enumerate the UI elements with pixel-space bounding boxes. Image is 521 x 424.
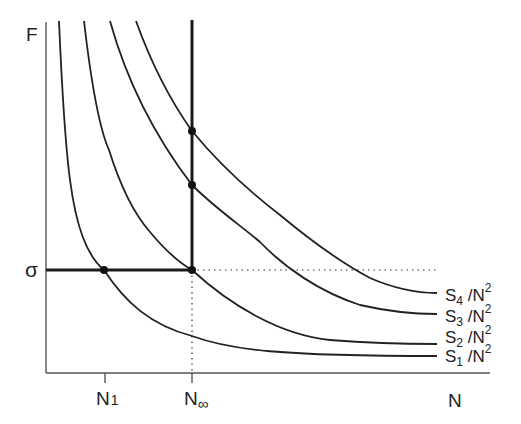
point-s1-sigma	[100, 266, 108, 274]
point-s3-ninf	[188, 181, 196, 189]
label-s1: S1 /N2	[445, 342, 492, 369]
x-axis-label: N	[448, 390, 462, 411]
y-axis-label: F	[26, 24, 38, 45]
sigma-label: σ	[25, 258, 38, 281]
diagram-canvas: F N σ N1 N∞ S4 /N2 S3 /N2 S2 /N2 S1 /N2	[0, 0, 521, 424]
point-s4-ninf	[188, 127, 196, 135]
point-s2-ninf	[188, 266, 196, 274]
curve-s2	[84, 21, 437, 344]
tick-label-n1: N1	[96, 388, 119, 409]
tick-label-ninf: N∞	[184, 388, 209, 412]
curve-s4	[136, 21, 437, 293]
